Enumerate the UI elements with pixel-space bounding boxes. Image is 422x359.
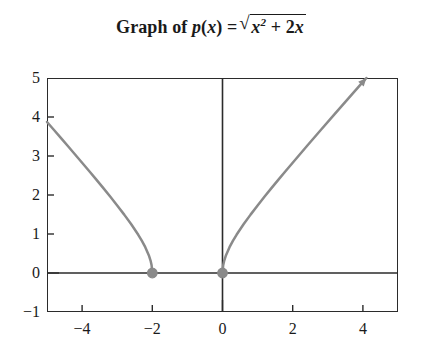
y-axis-tick-labels: −1012345 bbox=[0, 78, 40, 312]
plot-area bbox=[47, 78, 398, 312]
y-tick-label: 2 bbox=[32, 186, 40, 204]
plot-canvas bbox=[47, 78, 398, 312]
title-prefix: Graph of bbox=[116, 17, 192, 37]
x-tick-label: −2 bbox=[144, 320, 161, 338]
y-tick-label: 0 bbox=[32, 264, 40, 282]
y-tick-label: 1 bbox=[32, 225, 40, 243]
radicand-tail: + 2 bbox=[266, 17, 295, 37]
curve-right-branch bbox=[223, 78, 367, 273]
chart-figure: Graph of p(x) =√x2 + 2x −1012345 −4−2024 bbox=[0, 0, 422, 359]
radicand-tail-variable: x bbox=[295, 17, 304, 37]
marker-root-right bbox=[218, 268, 228, 278]
y-tick-label: 4 bbox=[32, 108, 40, 126]
y-tick-label: 5 bbox=[32, 69, 40, 87]
curve-left-branch bbox=[47, 122, 152, 273]
title-function-name: p bbox=[192, 17, 201, 37]
title-paren-close: ) bbox=[216, 17, 222, 37]
x-tick-label: 0 bbox=[219, 320, 227, 338]
x-tick-label: 4 bbox=[359, 320, 367, 338]
title-function-variable: x bbox=[207, 17, 216, 37]
radical-expression: √x2 + 2x bbox=[239, 14, 306, 38]
x-tick-label: 2 bbox=[289, 320, 297, 338]
x-tick-label: −4 bbox=[74, 320, 91, 338]
title-equals: = bbox=[227, 17, 237, 37]
chart-title: Graph of p(x) =√x2 + 2x bbox=[0, 14, 422, 38]
x-axis-tick-labels: −4−2024 bbox=[47, 312, 398, 344]
radical-sign-icon: √ bbox=[239, 13, 250, 32]
radicand: x2 + 2x bbox=[250, 14, 306, 38]
y-tick-label: 3 bbox=[32, 147, 40, 165]
y-tick-label: −1 bbox=[23, 303, 40, 321]
marker-root-left bbox=[148, 268, 158, 278]
